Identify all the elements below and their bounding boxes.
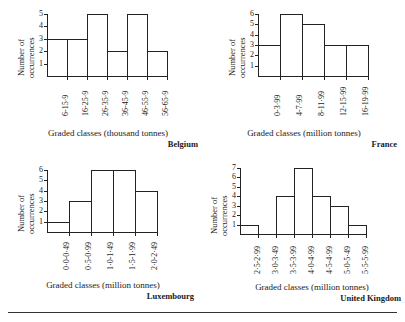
- x-axis-caption: Graded classes (million tonnes): [12, 280, 194, 290]
- x-axis-tick-mark: [135, 233, 136, 236]
- histogram-bar: [276, 196, 295, 234]
- x-axis-tick-mark: [147, 77, 148, 80]
- y-axis-tick-label: 6: [31, 165, 43, 174]
- histogram-bar: [240, 225, 259, 234]
- y-axis-tick-label: 6: [242, 9, 254, 18]
- histogram-bar: [91, 170, 114, 232]
- x-axis-tick-mark: [276, 235, 277, 238]
- y-axis-tick-label: 3: [242, 40, 254, 49]
- x-axis-tick-label: 4-7·99: [295, 95, 304, 116]
- x-axis-tick-label: 0·5-0·99: [84, 242, 93, 270]
- y-axis-tick-label: 4: [224, 191, 236, 200]
- x-axis-tick-mark: [127, 77, 128, 80]
- x-axis-tick-label: 5·5-5·99: [361, 246, 370, 274]
- y-axis-tick-label: 1: [31, 217, 43, 226]
- x-axis-caption: Graded classes (million tonnes): [211, 128, 397, 138]
- y-axis-tick-label: 4: [31, 186, 43, 195]
- y-axis-tick-label: 6: [224, 172, 236, 181]
- y-axis-label: Number of: [16, 195, 26, 232]
- y-axis-tick-label: 5: [31, 9, 43, 18]
- histogram-bar: [324, 45, 347, 76]
- x-axis-tick-label: 26-35·9: [101, 91, 110, 116]
- histogram-bar: [258, 45, 281, 76]
- y-axis-tick-label: 2: [31, 206, 43, 215]
- histogram-bar: [302, 24, 325, 76]
- chart-panel-france: Number ofoccurrences1234560-3·994-7·998-…: [203, 0, 405, 158]
- histogram-bar: [127, 14, 148, 76]
- y-axis-label: Number of: [209, 197, 219, 234]
- y-axis-tick-label: 2: [224, 210, 236, 219]
- y-axis-label: Number of: [227, 39, 237, 76]
- x-axis-tick-label: 0-3·99: [273, 95, 282, 116]
- y-axis-tick-label: 5: [242, 19, 254, 28]
- histogram-bar: [312, 196, 331, 234]
- x-axis-tick-label: 46-55·9: [141, 91, 150, 116]
- x-axis-tick-mark: [346, 77, 347, 80]
- y-axis-tick-label: 3: [31, 196, 43, 205]
- histogram-bar: [147, 51, 168, 76]
- x-axis-tick-label: 4·5-4·99: [325, 246, 334, 274]
- x-axis-caption: Graded classes (million tonnes): [223, 282, 401, 292]
- y-axis-tick-label: 5: [224, 182, 236, 191]
- x-axis-tick-mark: [258, 235, 259, 238]
- histogram-bar: [330, 206, 349, 234]
- x-axis-tick-label: 3·0-3·49: [271, 246, 280, 274]
- x-axis-tick-label: 2·0-2·49: [150, 242, 159, 270]
- histogram-bar: [107, 51, 128, 76]
- x-axis-tick-label: 4·0-4·99: [307, 246, 316, 274]
- y-axis-tick-label: 3: [224, 201, 236, 210]
- x-axis-tick-mark: [312, 235, 313, 238]
- y-axis-tick-label: 4: [31, 21, 43, 30]
- y-axis-tick-label: 5: [31, 175, 43, 184]
- chart-panel-belgium: Number ofoccurrences123456-15·916-25·926…: [0, 0, 203, 158]
- x-axis-tick-mark: [302, 77, 303, 80]
- y-axis-tick-label: 4: [242, 30, 254, 39]
- y-axis-tick-label: 7: [224, 163, 236, 172]
- y-axis-label-line1: Number of: [16, 39, 26, 76]
- histogram-bar: [135, 191, 158, 232]
- histogram-bar: [47, 222, 70, 232]
- x-axis-tick-label: 16-25·9: [81, 91, 90, 116]
- x-axis-tick-mark: [167, 77, 168, 80]
- x-axis-line: [258, 76, 369, 77]
- x-axis-tick-mark: [324, 77, 325, 80]
- y-axis-label: Number of: [16, 39, 26, 76]
- y-axis-tick-label: 2: [242, 50, 254, 59]
- y-axis-label-line1: Number of: [209, 197, 219, 234]
- x-axis-caption: Graded classes (thousand tonnes): [18, 128, 198, 138]
- x-axis-tick-label: 5·0-5·49: [343, 246, 352, 274]
- x-axis-tick-mark: [107, 77, 108, 80]
- x-axis-tick-mark: [157, 233, 158, 236]
- histogram-bar: [280, 14, 303, 76]
- y-axis-label-line1: Number of: [16, 195, 26, 232]
- x-axis-tick-label: 3·5-3·99: [289, 246, 298, 274]
- figure-divider-rule: [8, 312, 397, 313]
- y-axis-tick-label: 1: [224, 220, 236, 229]
- y-axis-tick-label: 2: [31, 46, 43, 55]
- x-axis-tick-label: 6-15·9: [61, 95, 70, 116]
- x-axis-tick-mark: [67, 77, 68, 80]
- x-axis-line: [47, 232, 158, 233]
- histogram-bar: [87, 14, 108, 76]
- x-axis-tick-mark: [69, 233, 70, 236]
- x-axis-tick-mark: [330, 235, 331, 238]
- x-axis-tick-label: 36-45·9: [121, 91, 130, 116]
- x-axis-tick-label: 1·5-1·99: [128, 242, 137, 270]
- x-axis-tick-mark: [280, 77, 281, 80]
- x-axis-tick-label: 12-15·99: [339, 87, 348, 116]
- histogram-bar: [69, 201, 92, 232]
- x-axis-tick-mark: [91, 233, 92, 236]
- y-axis-tick-label: 1: [242, 61, 254, 70]
- x-axis-tick-label: 0·0-0·49: [62, 242, 71, 270]
- y-axis-label-line1: Number of: [227, 39, 237, 76]
- histogram-bar: [47, 39, 68, 76]
- chart-title: France: [211, 139, 397, 149]
- x-axis-tick-mark: [113, 233, 114, 236]
- x-axis-tick-label: 56-65·9: [161, 91, 170, 116]
- y-axis-tick-label: 1: [31, 59, 43, 68]
- x-axis-tick-mark: [87, 77, 88, 80]
- y-axis-tick-label: 3: [31, 34, 43, 43]
- x-axis-tick-label: 2·5-2·99: [253, 246, 262, 274]
- chart-title: United Kingdom: [223, 293, 401, 303]
- x-axis-tick-mark: [294, 235, 295, 238]
